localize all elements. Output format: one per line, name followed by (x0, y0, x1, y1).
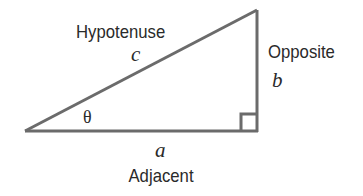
adjacent-label: Adjacent (128, 166, 193, 185)
diagram-canvas: Hypotenuse c Opposite b a Adjacent θ (0, 0, 363, 196)
right-angle-marker-icon (241, 114, 257, 131)
adjacent-variable-label: a (155, 140, 166, 161)
opposite-label: Opposite (268, 42, 335, 61)
hypotenuse-variable-label: c (131, 44, 140, 65)
opposite-variable-label: b (272, 70, 283, 91)
theta-angle-label: θ (83, 108, 92, 126)
hypotenuse-label: Hypotenuse (76, 22, 165, 41)
